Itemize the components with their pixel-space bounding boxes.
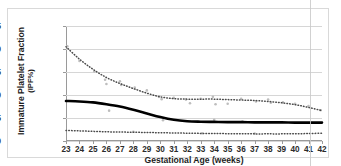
x-axis-title: Gestational Age (weeks) <box>66 155 322 165</box>
x-tick-mark-29 <box>147 141 148 144</box>
y-tick-label-15: 15 <box>0 68 1 76</box>
page-edge-artifact-line <box>310 0 311 166</box>
series-line-median <box>66 101 322 123</box>
x-tick-mark-24 <box>79 141 80 144</box>
y-axis-title: Immature Platelet Fraction (IPF%) <box>16 11 36 151</box>
x-tick-mark-26 <box>106 141 107 144</box>
chart-figure: Immature Platelet Fraction (IPF%) 051015… <box>0 0 341 166</box>
scatter-point <box>162 119 165 122</box>
y-tick-label-10: 10 <box>0 91 1 99</box>
y-tick-label-25: 25 <box>0 22 1 30</box>
x-tick-mark-31 <box>174 141 175 144</box>
scatter-point <box>267 98 270 101</box>
series-line-95th-percentile <box>66 47 322 111</box>
scatter-point <box>214 103 217 106</box>
x-tick-mark-32 <box>187 141 188 144</box>
gridline-y-0 <box>66 141 322 142</box>
scatter-point <box>212 96 215 99</box>
x-tick-mark-34 <box>214 141 215 144</box>
x-tick-mark-35 <box>228 141 229 144</box>
y-axis-title-line2: (IPF%) <box>26 11 36 151</box>
x-tick-mark-42 <box>322 141 323 144</box>
y-tick-label-5: 5 <box>0 114 1 122</box>
scatter-point <box>119 80 122 83</box>
chart-curves <box>66 26 322 141</box>
x-tick-mark-40 <box>295 141 296 144</box>
x-tick-mark-25 <box>93 141 94 144</box>
scatter-point <box>226 102 229 105</box>
x-tick-mark-39 <box>282 141 283 144</box>
y-tick-label-0: 0 <box>0 137 1 145</box>
x-tick-mark-37 <box>255 141 256 144</box>
series-line-5th-percentile <box>66 130 322 133</box>
x-tick-mark-38 <box>268 141 269 144</box>
y-tick-label-20: 20 <box>0 45 1 53</box>
chart-frame: Immature Platelet Fraction (IPF%) 051015… <box>7 8 329 158</box>
x-tick-label-42: 42 <box>314 145 330 154</box>
scatter-point <box>108 109 111 112</box>
scatter-point <box>146 89 149 92</box>
x-tick-mark-28 <box>133 141 134 144</box>
x-tick-mark-23 <box>66 141 67 144</box>
scatter-point <box>189 102 192 105</box>
x-tick-mark-33 <box>201 141 202 144</box>
x-tick-mark-36 <box>241 141 242 144</box>
y-axis-title-line1: Immature Platelet Fraction <box>16 27 26 135</box>
x-tick-mark-27 <box>120 141 121 144</box>
x-tick-mark-30 <box>160 141 161 144</box>
scatter-point <box>160 98 163 101</box>
scatter-point <box>105 83 108 86</box>
plot-area: 0510152025 23242526272829303132333435363… <box>66 26 322 141</box>
scatter-point <box>104 79 107 82</box>
